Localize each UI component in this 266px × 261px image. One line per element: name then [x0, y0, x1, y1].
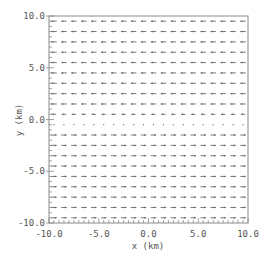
arrow-head-icon	[151, 41, 153, 43]
arrow-head-icon	[85, 155, 87, 157]
arrow-head-icon	[171, 93, 173, 95]
arrow-head-icon	[234, 175, 236, 177]
arrow-head-icon	[51, 51, 53, 53]
arrow-head-icon	[55, 206, 57, 208]
arrow-head-icon	[65, 186, 67, 188]
vector-point	[143, 124, 144, 125]
arrow-head-icon	[204, 155, 206, 157]
arrow-head-icon	[200, 62, 202, 64]
arrow-head-icon	[211, 113, 213, 115]
arrow-head-icon	[171, 31, 173, 33]
vector-point	[193, 124, 194, 125]
arrow-head-icon	[194, 144, 196, 146]
arrow-head-icon	[200, 20, 202, 22]
arrow-head-icon	[144, 175, 146, 177]
arrow-head-icon	[141, 31, 143, 33]
arrow-head-icon	[194, 155, 196, 157]
arrow-head-icon	[184, 217, 186, 219]
vector-point	[183, 124, 184, 125]
arrow-head-icon	[174, 196, 176, 198]
arrow-head-icon	[65, 155, 67, 157]
arrow-head-icon	[121, 51, 123, 53]
arrow-head-icon	[61, 41, 63, 43]
arrow-head-icon	[131, 62, 133, 64]
arrow-head-icon	[201, 113, 203, 115]
arrow-head-icon	[141, 51, 143, 53]
arrow-head-icon	[234, 217, 236, 219]
arrow-head-icon	[154, 165, 156, 167]
arrow-head-icon	[134, 217, 136, 219]
arrow-head-icon	[171, 41, 173, 43]
arrow-head-icon	[234, 186, 236, 188]
arrow-head-icon	[184, 175, 186, 177]
arrow-head-icon	[220, 31, 222, 33]
arrow-head-icon	[241, 113, 243, 115]
arrow-head-icon	[55, 144, 57, 146]
arrow-head-icon	[151, 113, 153, 115]
arrow-head-icon	[91, 31, 93, 33]
arrow-head-icon	[111, 72, 113, 74]
plot-frame	[49, 16, 248, 223]
y-tick-label: -5.0	[23, 166, 45, 176]
arrow-head-icon	[61, 31, 63, 33]
arrow-head-icon	[240, 51, 242, 53]
arrow-head-icon	[181, 103, 183, 105]
arrow-head-icon	[234, 165, 236, 167]
arrow-head-icon	[82, 113, 84, 115]
arrow-head-icon	[230, 82, 232, 84]
arrow-head-icon	[171, 20, 173, 22]
arrow-head-icon	[85, 206, 87, 208]
arrow-head-icon	[224, 134, 226, 136]
arrow-head-icon	[200, 31, 202, 33]
arrow-head-icon	[51, 93, 53, 95]
arrow-head-icon	[131, 72, 133, 74]
arrow-head-icon	[184, 206, 186, 208]
arrow-head-icon	[194, 134, 196, 136]
arrow-head-icon	[204, 165, 206, 167]
vector-point	[223, 124, 224, 125]
arrow-head-icon	[144, 206, 146, 208]
vector-point	[83, 124, 84, 125]
arrow-head-icon	[114, 206, 116, 208]
arrow-head-icon	[181, 72, 183, 74]
arrow-head-icon	[85, 165, 87, 167]
vector-point	[242, 124, 243, 125]
arrow-head-icon	[61, 51, 63, 53]
arrow-head-icon	[121, 72, 123, 74]
arrow-head-icon	[85, 175, 87, 177]
arrow-head-icon	[161, 82, 163, 84]
arrow-head-icon	[184, 134, 186, 136]
arrow-head-icon	[161, 72, 163, 74]
arrow-head-icon	[244, 165, 246, 167]
x-axis-label: x (km)	[132, 241, 165, 251]
arrow-head-icon	[154, 175, 156, 177]
arrow-head-icon	[91, 103, 93, 105]
plot-axes	[46, 16, 248, 223]
vector-point	[73, 124, 74, 125]
arrow-head-icon	[81, 20, 83, 22]
arrow-head-icon	[95, 175, 97, 177]
arrow-head-icon	[65, 134, 67, 136]
arrow-head-icon	[191, 93, 193, 95]
arrow-head-icon	[161, 113, 163, 115]
arrow-head-icon	[151, 51, 153, 53]
arrow-head-icon	[55, 186, 57, 188]
arrow-head-icon	[61, 82, 63, 84]
arrow-head-icon	[184, 186, 186, 188]
arrow-head-icon	[95, 217, 97, 219]
arrow-head-icon	[164, 134, 166, 136]
vector-point	[203, 124, 204, 125]
arrow-head-icon	[204, 175, 206, 177]
arrow-head-icon	[134, 206, 136, 208]
arrow-head-icon	[52, 113, 54, 115]
arrow-head-icon	[81, 41, 83, 43]
arrow-head-icon	[154, 196, 156, 198]
arrow-head-icon	[134, 186, 136, 188]
arrow-head-icon	[181, 20, 183, 22]
arrow-head-icon	[55, 196, 57, 198]
arrow-head-icon	[104, 206, 106, 208]
arrow-head-icon	[230, 20, 232, 22]
arrow-head-icon	[221, 113, 223, 115]
arrow-head-icon	[131, 41, 133, 43]
arrow-head-icon	[121, 82, 123, 84]
